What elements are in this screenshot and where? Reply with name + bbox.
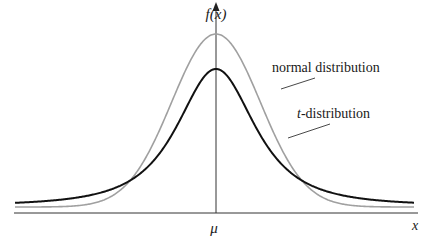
t-distribution-label: t-distribution (297, 106, 370, 121)
normal-leader-line (281, 78, 315, 89)
y-axis-label: f(x) (206, 6, 227, 23)
mu-tick-label: μ (209, 220, 218, 236)
t-label-rest: -distribution (301, 106, 370, 121)
t-distribution-curve (15, 69, 414, 203)
x-axis-label: x (411, 218, 419, 233)
t-leader-line (288, 124, 330, 138)
normal-distribution-label: normal distribution (272, 60, 380, 75)
distribution-chart: f(x) x μ normal distribution t-distribut… (0, 0, 432, 246)
